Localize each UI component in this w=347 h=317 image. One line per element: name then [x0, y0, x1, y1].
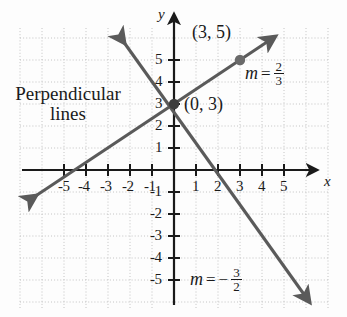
- point-0-3: [169, 99, 179, 109]
- ytick-label-2: 2: [155, 117, 162, 134]
- fraction-three-halves: 3 2: [231, 266, 242, 293]
- ytick-label--1: -1: [150, 183, 162, 200]
- fraction-numerator: 2: [274, 60, 285, 73]
- xtick-label-4: 4: [258, 178, 265, 195]
- equals-sign-neg: =: [206, 270, 216, 290]
- graph-figure: -5 -4 -3 -2 -1 1 2 3 4 5 5 4 3 2 1 -1 -2…: [0, 0, 347, 317]
- slope-label-positive: m = 2 3: [245, 60, 284, 87]
- ytick-label--3: -3: [150, 227, 162, 244]
- xtick-label-1: 1: [192, 178, 199, 195]
- point-label-0-3: (0, 3): [184, 94, 223, 115]
- fraction-numerator-neg: 3: [231, 266, 242, 279]
- caption-line-2: lines: [2, 104, 134, 124]
- slope-symbol-m-neg: m: [190, 269, 203, 290]
- xtick-label--4: -4: [78, 178, 90, 195]
- x-axis-label: x: [324, 173, 331, 190]
- xtick-label-5: 5: [280, 178, 287, 195]
- ytick-label-5: 5: [155, 51, 162, 68]
- minus-sign: −: [219, 270, 229, 290]
- perpendicular-lines-caption: Perpendicular lines: [2, 84, 134, 124]
- ytick-label-3: 3: [155, 95, 162, 112]
- xtick-label-3: 3: [236, 178, 243, 195]
- point-3-5: [235, 55, 245, 65]
- ytick-label--4: -4: [150, 249, 162, 266]
- point-label-3-5: (3, 5): [192, 22, 231, 43]
- equals-sign: =: [261, 64, 271, 84]
- slope-symbol-m: m: [245, 63, 258, 84]
- y-axis: [168, 16, 180, 305]
- ytick-label-1: 1: [155, 139, 162, 156]
- xtick-label--3: -3: [100, 178, 112, 195]
- fraction-denominator-neg: 2: [231, 279, 242, 293]
- y-axis-label: y: [158, 6, 165, 23]
- fraction-denominator: 3: [274, 73, 285, 87]
- caption-line-1: Perpendicular: [2, 84, 134, 104]
- ytick-label--2: -2: [150, 205, 162, 222]
- slope-label-negative: m = − 3 2: [190, 266, 242, 293]
- coordinate-plane: [0, 0, 347, 317]
- xtick-label--5: -5: [58, 178, 70, 195]
- xtick-label--2: -2: [122, 178, 134, 195]
- xtick-label-2: 2: [214, 178, 221, 195]
- ytick-label--5: -5: [150, 271, 162, 288]
- fraction-two-thirds: 2 3: [274, 60, 285, 87]
- ytick-label-4: 4: [155, 73, 162, 90]
